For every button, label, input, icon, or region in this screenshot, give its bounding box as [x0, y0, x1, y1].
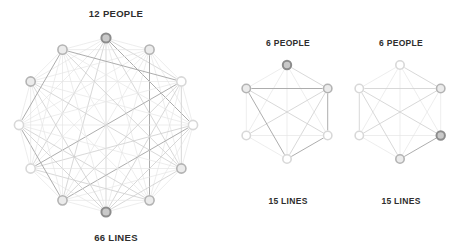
- graph-node-ring: [26, 77, 35, 86]
- graph-node: [282, 60, 292, 70]
- graph-node: [101, 33, 112, 44]
- graph-node: [282, 154, 292, 164]
- graph-6-people-middle-top-caption: 6 PEOPLE: [266, 38, 310, 48]
- graph-node-ring: [283, 61, 291, 69]
- graph-node: [144, 44, 155, 55]
- graph-node: [323, 130, 333, 140]
- graph-node-ring: [396, 155, 404, 163]
- graph-node: [395, 154, 405, 164]
- graph-12-people-top-caption: 12 PEOPLE: [89, 8, 143, 19]
- graph-node-ring: [396, 61, 404, 69]
- graph-node-ring: [242, 84, 250, 92]
- graph-node: [25, 163, 36, 174]
- graph-node-ring: [145, 45, 154, 54]
- graph-6-people-right-bottom-caption: 15 LINES: [381, 196, 420, 206]
- graph-node-ring: [58, 45, 67, 54]
- graph-node-ring: [145, 196, 154, 205]
- graph-node: [436, 130, 446, 140]
- graph-node: [176, 76, 187, 87]
- graph-node: [323, 83, 333, 93]
- graph-node-ring: [14, 120, 23, 129]
- graph-node: [354, 83, 364, 93]
- graph-node: [14, 120, 25, 131]
- graph-6-people-right-top-caption: 6 PEOPLE: [379, 38, 423, 48]
- graph-node-ring: [58, 196, 67, 205]
- graph-node-ring: [26, 164, 35, 173]
- graph-node-ring: [324, 84, 332, 92]
- graph-node-ring: [437, 131, 445, 139]
- graph-node: [354, 130, 364, 140]
- graph-node-ring: [101, 33, 110, 42]
- graph-node-ring: [188, 120, 197, 129]
- graph-node-ring: [437, 84, 445, 92]
- graph-node: [57, 195, 68, 206]
- graph-6-people-middle-bottom-caption: 15 LINES: [268, 196, 307, 206]
- network-diagram-figure: 12 PEOPLE 66 LINES 6 PEOPLE 15 LINES 6 P…: [0, 0, 460, 252]
- graph-node: [176, 163, 187, 174]
- graph-node: [25, 76, 36, 87]
- graph-12-people-bottom-caption: 66 LINES: [94, 232, 138, 243]
- graph-node: [241, 83, 251, 93]
- graph-node-ring: [355, 84, 363, 92]
- graph-node: [436, 83, 446, 93]
- graph-node-ring: [101, 207, 110, 216]
- graph-node: [57, 44, 68, 55]
- graph-node-ring: [177, 164, 186, 173]
- graph-node-ring: [355, 131, 363, 139]
- graph-node: [144, 195, 155, 206]
- graph-node: [188, 120, 199, 131]
- graph-node: [101, 207, 112, 218]
- graph-node-ring: [242, 131, 250, 139]
- graph-node-ring: [324, 131, 332, 139]
- graph-node: [395, 60, 405, 70]
- graph-node-ring: [283, 155, 291, 163]
- graph-node: [241, 130, 251, 140]
- graph-node-ring: [177, 77, 186, 86]
